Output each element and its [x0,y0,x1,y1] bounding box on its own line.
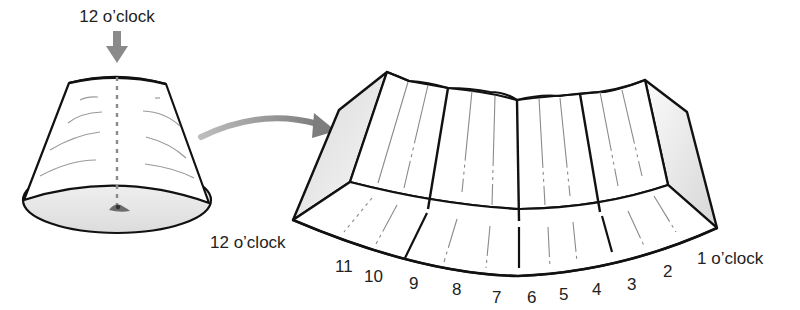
diagram-canvas: 12 o’clock [0,0,800,310]
clock-number: 8 [452,280,461,299]
clock-number: 5 [559,285,568,304]
clock-number: 7 [492,288,501,307]
clock-number: 9 [409,274,418,293]
top-12-oclock-label: 12 o’clock [79,7,155,26]
curved-arrow-icon [201,113,336,138]
clock-number: 10 [364,267,383,286]
clock-number: 6 [527,288,536,307]
clock-number: 11 [335,257,353,276]
opened-structure [293,72,717,276]
clock-number: 3 [627,275,636,294]
left-12-oclock-label: 12 o’clock [210,233,286,252]
back-wall [350,72,668,209]
clock-number: 4 [592,280,601,299]
cone-structure [23,77,211,233]
clock-number: 2 [663,262,672,281]
down-arrow-icon [106,31,128,63]
right-1-oclock-label: 1 o’clock [697,249,764,268]
